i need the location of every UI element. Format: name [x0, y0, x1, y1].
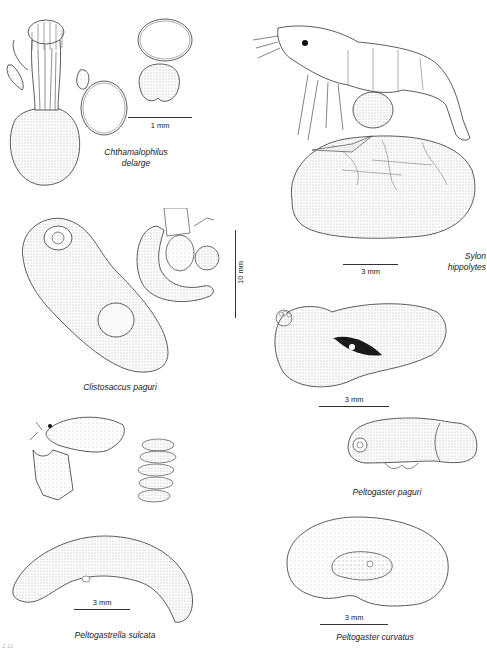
- egg-membrane-ring: [78, 78, 130, 138]
- peltogastrella-host-illustration: [28, 410, 180, 510]
- peltogaster-externa-illustration: [272, 300, 450, 392]
- sylon-host-shrimp-illustration: [248, 10, 487, 150]
- label-peltogastrella: Peltogastrella sulcata: [40, 630, 190, 641]
- clistosaccus-host-illustration: [132, 208, 224, 308]
- label-chthamalophilus: Chthamalophilus delarge: [86, 147, 186, 169]
- label-peltogaster-paguri: Peltogaster paguri: [322, 487, 452, 498]
- sylon-externa-illustration: [282, 130, 477, 242]
- scale-bar-clistosaccus: 10 mm: [235, 230, 247, 318]
- peltogaster-paguri-illustration: [340, 413, 480, 473]
- label-sylon: Sylon hippolytes: [420, 251, 486, 273]
- peltogaster-curvatus-illustration: [282, 512, 454, 612]
- label-clistosaccus: Clistosaccus paguri: [55, 382, 185, 393]
- figure-number: 2.11: [2, 643, 13, 649]
- label-peltogaster-curvatus: Peltogaster curvatus: [310, 632, 440, 643]
- peltogastrella-externa-illustration: [10, 534, 195, 626]
- chthamalophilus-detail: [132, 18, 194, 108]
